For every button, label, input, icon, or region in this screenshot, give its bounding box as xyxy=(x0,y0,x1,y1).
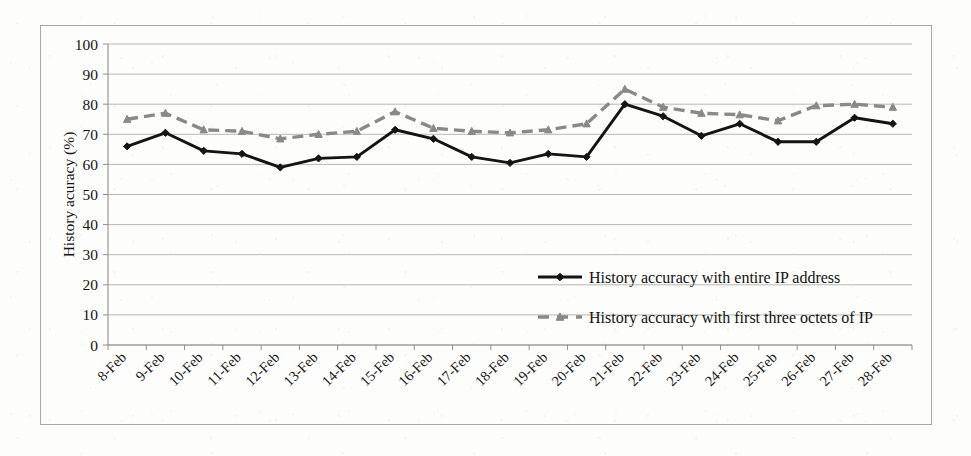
x-axis-tick-label: 26-Feb xyxy=(778,349,818,389)
data-point-marker xyxy=(315,155,322,162)
series-2 xyxy=(123,85,896,142)
gridlines-group xyxy=(108,44,912,345)
x-axis-tick-label: 9-Feb xyxy=(132,349,167,384)
y-axis-tick-label: 90 xyxy=(83,66,99,83)
x-axis-tick-label: 20-Feb xyxy=(548,349,588,389)
y-axis-tick-labels-group: 0102030405060708090100 xyxy=(75,36,99,354)
x-axis-tick-label: 17-Feb xyxy=(433,349,473,389)
chart-svg: 0102030405060708090100 8-Feb9-Feb10-Feb1… xyxy=(0,0,971,456)
x-axis-ticks-group xyxy=(108,345,912,350)
x-axis-tick-label: 15-Feb xyxy=(357,349,397,389)
y-axis-tick-label: 10 xyxy=(83,306,99,323)
y-axis-tick-label: 0 xyxy=(90,337,98,354)
x-axis-tick-label: 8-Feb xyxy=(94,349,129,384)
x-axis-tick-label: 13-Feb xyxy=(280,349,320,389)
x-axis-tick-label: 10-Feb xyxy=(165,349,205,389)
x-axis-tick-label: 14-Feb xyxy=(319,349,359,389)
x-axis-tick-label: 27-Feb xyxy=(816,349,856,389)
x-axis-tick-label: 22-Feb xyxy=(625,349,665,389)
x-axis-tick-label: 28-Feb xyxy=(855,349,895,389)
y-axis-tick-label: 40 xyxy=(83,216,99,233)
data-point-marker xyxy=(545,150,552,157)
legend-marker xyxy=(556,273,564,281)
x-axis-tick-label: 25-Feb xyxy=(740,349,780,389)
line-chart: 0102030405060708090100 8-Feb9-Feb10-Feb1… xyxy=(0,0,971,456)
x-axis-tick-label: 12-Feb xyxy=(242,349,282,389)
x-axis-tick-label: 19-Feb xyxy=(510,349,550,389)
x-axis-tick-label: 11-Feb xyxy=(204,349,244,389)
x-axis-tick-label: 16-Feb xyxy=(395,349,435,389)
y-axis-ticks-group xyxy=(103,44,108,345)
x-axis-tick-label: 18-Feb xyxy=(472,349,512,389)
data-point-marker xyxy=(238,150,245,157)
data-point-marker xyxy=(889,120,896,127)
data-point-marker xyxy=(124,143,131,150)
legend-entry: History accuracy with first three octets… xyxy=(538,309,873,327)
x-axis-tick-label: 21-Feb xyxy=(587,349,627,389)
data-point-marker xyxy=(506,159,513,166)
y-axis-tick-label: 30 xyxy=(83,246,99,263)
y-axis-tick-label: 20 xyxy=(83,276,99,293)
y-axis-tick-label: 60 xyxy=(83,156,99,173)
y-axis-title: History acuracy (%) xyxy=(60,132,78,258)
y-axis-tick-label: 100 xyxy=(75,36,99,53)
y-axis-tick-label: 80 xyxy=(83,96,99,113)
y-axis-tick-label: 50 xyxy=(83,186,99,203)
y-axis-tick-label: 70 xyxy=(83,126,99,143)
data-series-group xyxy=(123,85,896,171)
x-axis-tick-labels-group: 8-Feb9-Feb10-Feb11-Feb12-Feb13-Feb14-Feb… xyxy=(94,349,895,389)
y-axis-title-text: History acuracy (%) xyxy=(60,132,78,258)
legend-label: History accuracy with entire IP address xyxy=(589,269,840,287)
legend-label: History accuracy with first three octets… xyxy=(589,309,873,327)
chart-legend: History accuracy with entire IP addressH… xyxy=(538,269,873,327)
x-axis-tick-label: 23-Feb xyxy=(663,349,703,389)
x-axis-tick-label: 24-Feb xyxy=(701,349,741,389)
